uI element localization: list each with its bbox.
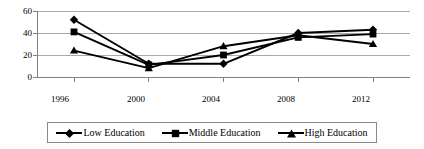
line-chart: 60 40 20 0 1996 2000 2004 2008 2012 Low … (0, 0, 424, 149)
data-point-2004 (220, 52, 227, 59)
data-point-2012 (370, 31, 377, 38)
legend-item-middle-education[interactable]: Middle Education (162, 128, 261, 138)
data-point-1996 (70, 47, 78, 54)
triangle-marker-icon (278, 128, 304, 138)
legend-label-high-education: High Education (305, 128, 368, 138)
legend-item-high-education[interactable]: High Education (278, 128, 368, 138)
square-marker-icon (162, 128, 188, 138)
legend-label-low-education: Low Education (83, 128, 144, 138)
data-point-1996 (70, 16, 78, 24)
data-point-1996 (71, 29, 78, 36)
data-point-2004 (219, 60, 227, 68)
legend-item-low-education[interactable]: Low Education (56, 128, 144, 138)
diamond-marker-icon (56, 128, 82, 138)
legend-label-middle-education: Middle Education (189, 128, 261, 138)
chart-legend: Low Education Middle Education High Educ… (47, 122, 377, 143)
